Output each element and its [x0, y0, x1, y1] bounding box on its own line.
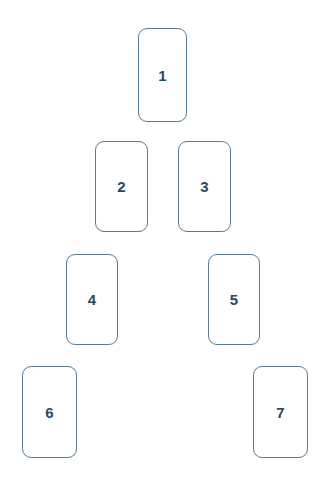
- card-position-2[interactable]: 2: [95, 141, 148, 232]
- card-position-label: 2: [117, 179, 125, 194]
- card-position-label: 3: [200, 179, 208, 194]
- card-position-6[interactable]: 6: [22, 366, 77, 458]
- card-position-label: 5: [230, 292, 238, 307]
- card-position-label: 1: [158, 68, 166, 83]
- card-position-4[interactable]: 4: [66, 254, 118, 345]
- card-spread-diagram: 1 2 3 4 5 6 7: [0, 0, 325, 487]
- card-position-label: 7: [276, 405, 284, 420]
- card-position-1[interactable]: 1: [138, 28, 187, 122]
- card-position-label: 4: [88, 292, 96, 307]
- card-position-7[interactable]: 7: [253, 366, 308, 458]
- card-position-3[interactable]: 3: [178, 141, 231, 232]
- card-position-label: 6: [45, 405, 53, 420]
- card-position-5[interactable]: 5: [208, 254, 260, 345]
